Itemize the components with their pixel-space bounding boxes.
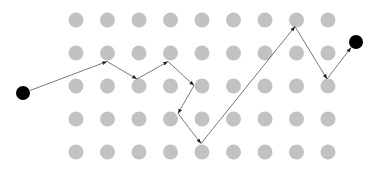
grid-dot: [132, 145, 147, 160]
path-arrow-segment: [201, 27, 295, 144]
grid-dot: [321, 145, 336, 160]
grid-dot: [100, 145, 115, 160]
grid-dot: [289, 46, 304, 61]
grid-dot: [100, 13, 115, 28]
grid-dot: [69, 13, 84, 28]
grid-dot: [195, 112, 210, 127]
grid-dot: [163, 79, 178, 94]
grid-dot: [258, 79, 273, 94]
grid-dot: [258, 13, 273, 28]
grid-dot: [100, 79, 115, 94]
path-arrow-segment: [137, 62, 168, 80]
grid-dot: [69, 112, 84, 127]
grid-dot: [132, 112, 147, 127]
grid-dot: [163, 46, 178, 61]
grid-dot: [321, 46, 336, 61]
grid-dot: [69, 145, 84, 160]
grid-dot: [321, 79, 336, 94]
grid-dot: [163, 145, 178, 160]
grid-dot: [226, 112, 241, 127]
grid-dot: [258, 145, 273, 160]
grid-dot: [195, 13, 210, 28]
grid-dot: [258, 46, 273, 61]
grid-dot: [289, 145, 304, 160]
grid-dot: [100, 46, 115, 61]
grid-dot: [163, 112, 178, 127]
grid-dot: [132, 79, 147, 94]
path-arrow-segment: [178, 86, 194, 114]
grid-path-diagram: [0, 0, 378, 172]
grid-dot: [69, 79, 84, 94]
grid-dot: [69, 46, 84, 61]
grid-dot: [321, 112, 336, 127]
grid-dot: [258, 112, 273, 127]
grid-dot: [132, 13, 147, 28]
grid-dot: [100, 112, 115, 127]
grid-dot: [195, 46, 210, 61]
grid-dot: [226, 145, 241, 160]
grid-dot: [321, 13, 336, 28]
grid-dot: [226, 13, 241, 28]
start-node: [16, 86, 30, 100]
grid-dot: [226, 46, 241, 61]
path-arrow-segment: [30, 62, 107, 91]
end-node: [349, 35, 363, 49]
grid-dot: [195, 145, 210, 160]
grid-dot: [289, 13, 304, 28]
grid-dot: [289, 112, 304, 127]
path-arrow-segment: [107, 62, 137, 80]
grid-dot: [195, 79, 210, 94]
grid-dot: [132, 46, 147, 61]
grid-dot: [289, 79, 304, 94]
grid-dots: [69, 13, 336, 160]
grid-dot: [163, 13, 178, 28]
grid-dot: [226, 79, 241, 94]
